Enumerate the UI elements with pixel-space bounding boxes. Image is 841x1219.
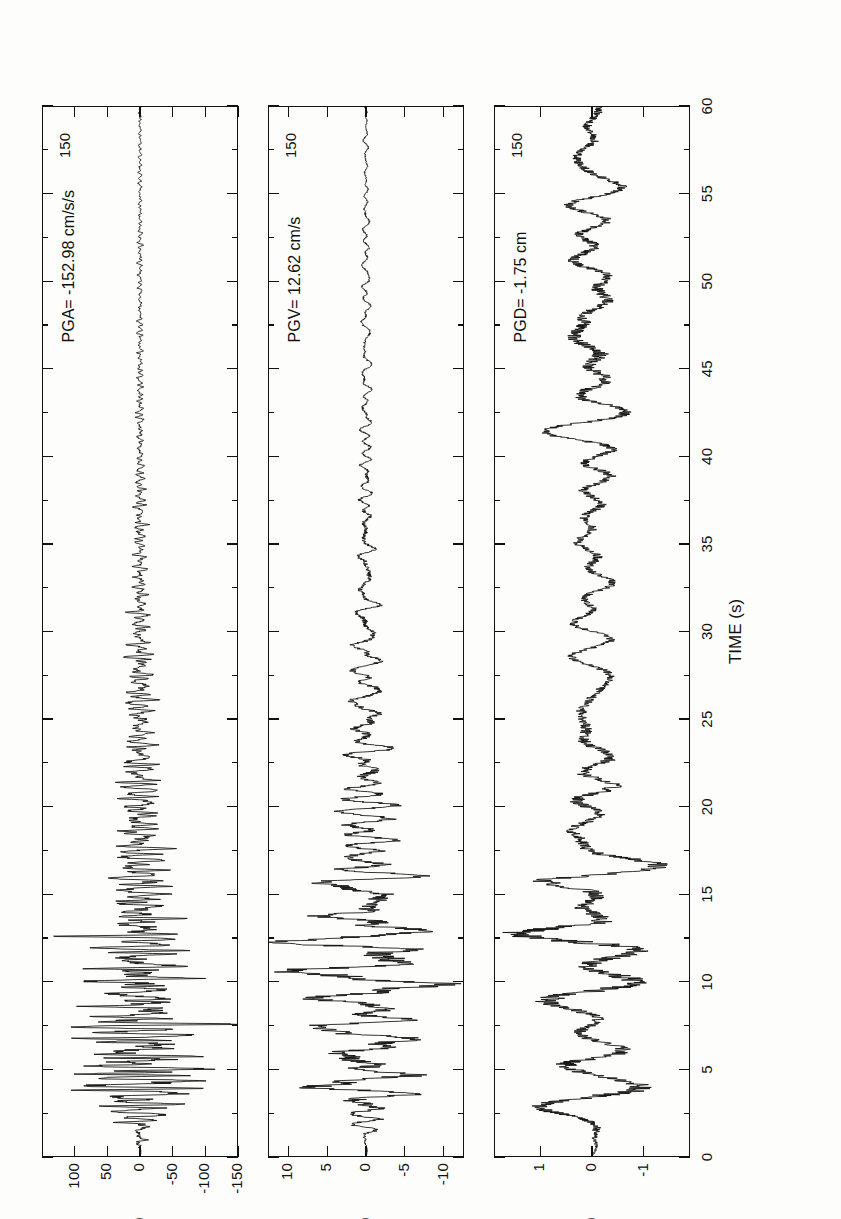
time-tick [232,324,238,325]
time-tick [227,456,238,457]
value-tick-displacement [643,106,644,117]
time-tick-label: 30 [698,608,715,656]
time-tick [227,193,238,194]
time-tick-label: 50 [698,257,715,305]
time-tick [458,1025,464,1026]
time-tick [268,412,274,413]
time-tick [42,894,53,895]
time-tick [42,193,53,194]
time-tick [684,587,690,588]
time-tick [679,1069,690,1070]
time-tick [42,500,48,501]
time-tick [494,1069,505,1070]
value-tick-displacement [591,1146,592,1157]
time-tick [684,500,690,501]
value-tick-velocity [327,106,328,117]
value-tick-velocity [404,106,405,117]
time-tick [268,806,279,807]
time-tick [458,850,464,851]
time-tick [453,894,464,895]
time-tick [268,719,279,720]
time-tick [679,631,690,632]
time-tick [494,937,500,938]
time-tick [42,587,48,588]
time-tick [494,1113,500,1114]
time-tick [494,324,500,325]
peak-label-acceleration: PGA= -152.98 cm/s/s [60,190,78,343]
time-tick [494,149,500,150]
time-tick [458,587,464,588]
time-tick [268,631,279,632]
value-tick-velocity [288,106,289,117]
time-tick [227,1156,238,1157]
time-tick [42,412,48,413]
time-tick [268,1069,279,1070]
time-tick [458,937,464,938]
time-tick [494,193,505,194]
time-tick-label: 15 [698,870,715,918]
value-tick-acceleration [139,106,140,117]
time-tick [42,543,53,544]
time-tick [268,368,279,369]
time-tick [227,368,238,369]
time-tick [458,762,464,763]
time-tick [684,237,690,238]
value-tick-displacement [540,1146,541,1157]
time-tick [494,368,505,369]
time-tick [453,631,464,632]
time-tick [494,719,505,720]
time-tick [268,281,279,282]
time-tick [42,105,53,106]
value-tick-acceleration [107,106,108,117]
time-tick [453,719,464,720]
time-axis-title: TIME (s) [726,552,746,712]
time-tick [453,1156,464,1157]
time-tick [227,543,238,544]
time-tick [684,675,690,676]
time-tick [679,105,690,106]
time-tick [232,587,238,588]
figure-page: 100500-50-100-150ACCELERATION (cm/s/s)PG… [0,0,841,1219]
time-tick [232,1025,238,1026]
value-tick-acceleration [139,1146,140,1157]
time-tick [494,281,505,282]
time-tick [268,937,274,938]
time-tick [227,281,238,282]
time-tick [227,894,238,895]
time-tick [268,981,279,982]
value-tick-label: 0 [130,1163,147,1203]
time-tick [42,762,48,763]
time-tick [494,1025,500,1026]
time-tick [679,193,690,194]
time-tick-label: 5 [698,1045,715,1093]
time-tick [684,324,690,325]
time-tick [494,543,505,544]
value-tick-displacement [643,1146,644,1157]
value-tick-label: -10 [434,1163,451,1203]
time-tick [453,543,464,544]
time-tick [684,1025,690,1026]
value-tick-velocity [443,106,444,117]
value-tick-velocity [365,1146,366,1157]
time-tick [268,850,274,851]
time-tick [42,1025,48,1026]
value-tick-displacement [591,106,592,117]
time-tick [227,631,238,632]
time-tick-label: 55 [698,170,715,218]
time-tick [494,587,500,588]
time-tick-label: 40 [698,432,715,480]
value-tick-label: 50 [97,1163,114,1203]
time-tick [227,719,238,720]
time-tick [227,806,238,807]
time-tick [268,1113,274,1114]
time-tick [679,719,690,720]
value-tick-label: -5 [395,1163,412,1203]
time-tick [679,806,690,807]
time-tick [494,675,500,676]
value-tick-label: -1 [634,1163,651,1203]
time-tick [42,149,48,150]
value-tick-acceleration [205,1146,206,1157]
value-tick-label: -150 [228,1163,245,1203]
time-tick [42,237,48,238]
value-tick-label: -100 [195,1163,212,1203]
